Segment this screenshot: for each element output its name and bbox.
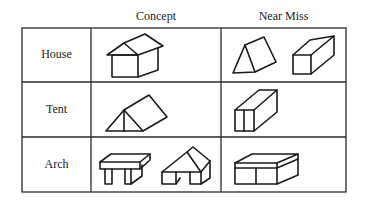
flat-top-arch-icon	[100, 154, 150, 184]
house-shape-icon	[107, 34, 163, 77]
rectangular-block-icon	[293, 36, 334, 74]
closed-box-arch-icon	[235, 154, 298, 184]
upright-block-with-divider-icon	[235, 90, 277, 131]
diagram-canvas	[0, 0, 368, 205]
peaked-top-arch-icon	[162, 147, 210, 184]
triangular-prism-lying-icon	[233, 37, 276, 73]
triangular-prism-tent-icon	[106, 95, 167, 131]
